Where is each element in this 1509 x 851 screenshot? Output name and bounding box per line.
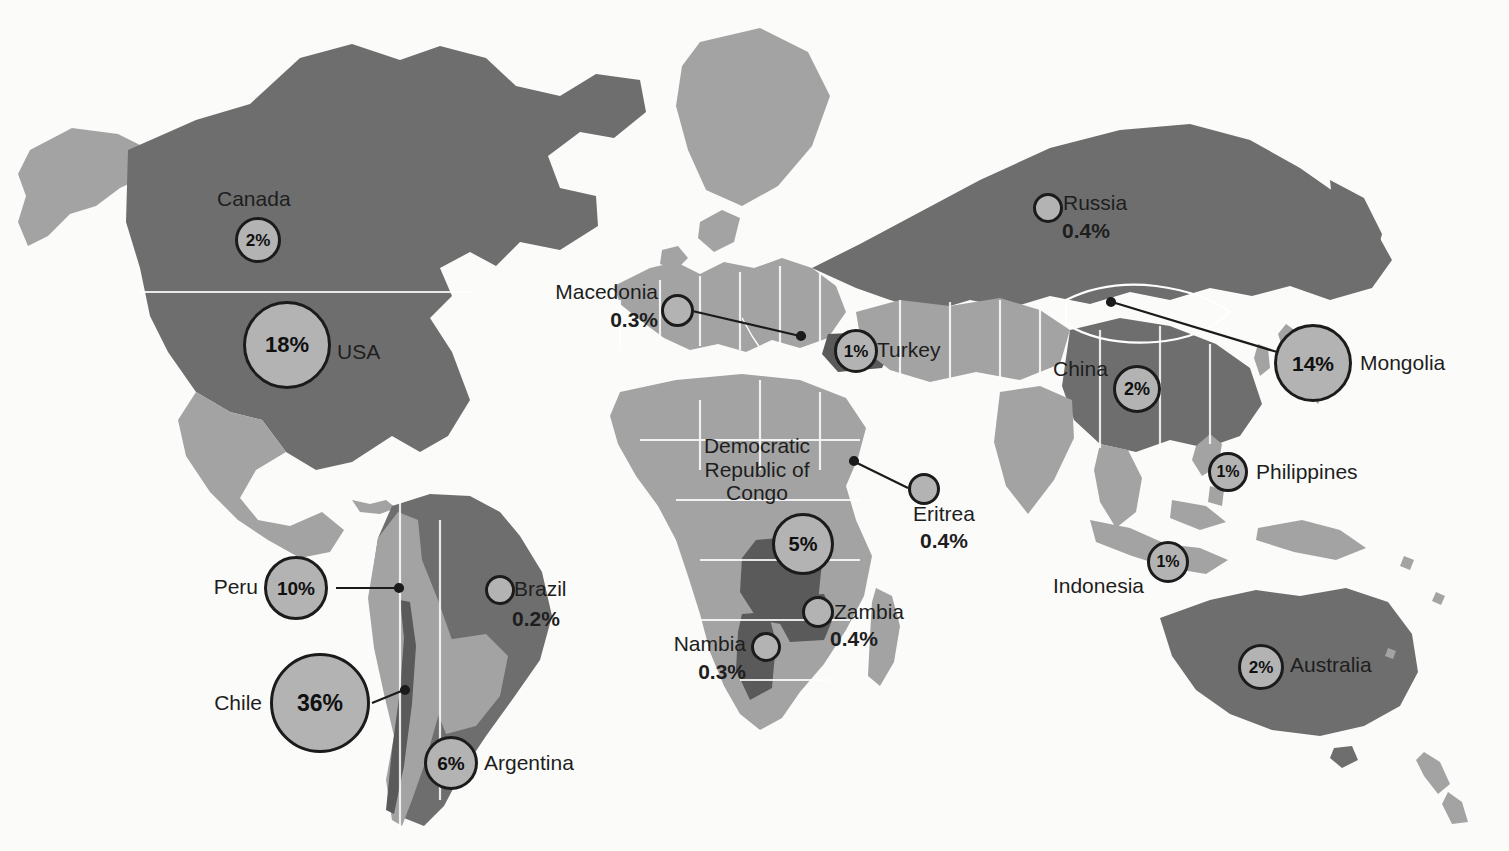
- bubble-philippines[interactable]: 1%: [1208, 452, 1248, 492]
- bubble-brazil[interactable]: [485, 575, 515, 605]
- label-russia-value: 0.4%: [1062, 220, 1110, 243]
- label-china: China: [1053, 358, 1108, 381]
- bubble-indonesia[interactable]: 1%: [1147, 541, 1189, 583]
- label-brazil-value: 0.2%: [512, 608, 560, 631]
- bubble-nambia[interactable]: [751, 632, 781, 662]
- label-turkey: Turkey: [877, 339, 940, 362]
- label-eritrea-value: 0.4%: [884, 530, 1004, 553]
- label-chile: Chile: [200, 692, 262, 715]
- bubble-usa-value: 18%: [265, 334, 309, 356]
- label-russia: Russia: [1063, 192, 1127, 215]
- bubble-macedonia[interactable]: [661, 294, 694, 327]
- label-macedonia-value: 0.3%: [540, 309, 658, 332]
- bubble-zambia[interactable]: [802, 596, 834, 628]
- bubble-chile[interactable]: 36%: [270, 653, 370, 753]
- bubble-peru[interactable]: 10%: [264, 556, 328, 620]
- bubble-philippines-value: 1%: [1216, 464, 1239, 480]
- label-argentina: Argentina: [484, 752, 574, 775]
- bubble-turkey[interactable]: 1%: [834, 329, 878, 373]
- bubble-eritrea[interactable]: [908, 473, 940, 505]
- bubble-mongolia[interactable]: 14%: [1274, 324, 1352, 402]
- label-canada: Canada: [217, 188, 291, 211]
- bubble-usa[interactable]: 18%: [243, 301, 331, 389]
- label-zambia-value: 0.4%: [830, 628, 878, 651]
- label-eritrea: Eritrea: [884, 503, 1004, 526]
- bubble-russia[interactable]: [1033, 193, 1063, 223]
- label-indonesia: Indonesia: [1028, 575, 1144, 598]
- bubble-turkey-value: 1%: [844, 343, 869, 360]
- bubble-canada-value: 2%: [246, 232, 271, 249]
- label-philippines: Philippines: [1256, 461, 1358, 484]
- label-zambia: Zambia: [834, 601, 904, 624]
- bubble-china-value: 2%: [1124, 380, 1150, 398]
- label-brazil: Brazil: [514, 578, 567, 601]
- bubble-drc[interactable]: 5%: [772, 513, 834, 575]
- bubble-australia[interactable]: 2%: [1238, 644, 1284, 690]
- leader-line-eritrea: [855, 462, 908, 488]
- label-australia: Australia: [1290, 654, 1372, 677]
- bubble-mongolia-value: 14%: [1292, 353, 1334, 374]
- label-macedonia: Macedonia: [540, 281, 658, 304]
- world-map-graphic: .hl{fill:#6e6e6e;} .ot{fill:#a3a3a3;} .a…: [0, 0, 1509, 851]
- bubble-china[interactable]: 2%: [1113, 365, 1161, 413]
- bubble-argentina-value: 6%: [437, 754, 464, 773]
- world-bubble-map: .hl{fill:#6e6e6e;} .ot{fill:#a3a3a3;} .a…: [0, 0, 1509, 851]
- bubble-argentina[interactable]: 6%: [424, 736, 478, 790]
- label-nambia: Nambia: [654, 633, 746, 656]
- label-drc: Democratic Republic of Congo: [692, 434, 822, 505]
- bubble-indonesia-value: 1%: [1156, 554, 1179, 570]
- bubble-canada[interactable]: 2%: [235, 217, 281, 263]
- bubble-chile-value: 36%: [297, 692, 343, 715]
- label-usa: USA: [337, 341, 380, 364]
- label-nambia-value: 0.3%: [654, 661, 746, 684]
- label-mongolia: Mongolia: [1360, 352, 1445, 375]
- label-peru: Peru: [198, 576, 258, 599]
- bubble-peru-value: 10%: [277, 579, 315, 598]
- bubble-drc-value: 5%: [789, 534, 818, 554]
- landmass-oceania: [1090, 434, 1468, 824]
- bubble-australia-value: 2%: [1249, 659, 1274, 676]
